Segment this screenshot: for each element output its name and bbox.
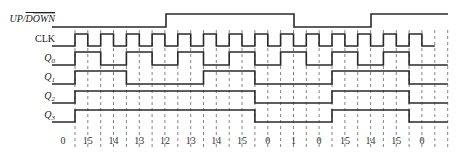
count-label: 12 [160, 135, 170, 146]
count-label: 0 [317, 135, 322, 146]
label-clk: CLK [35, 33, 56, 44]
count-label: 15 [237, 135, 247, 146]
label-q2: Q2 [44, 90, 55, 103]
waveform-q0 [52, 52, 448, 65]
waveform-q1 [52, 71, 448, 84]
count-label: 15 [83, 135, 93, 146]
label-updown: UP/DOWN [9, 13, 56, 24]
count-label: 0 [61, 135, 66, 146]
label-q0: Q0 [44, 52, 55, 65]
waveforms [52, 14, 448, 122]
count-label: 15 [340, 135, 350, 146]
waveform-updown [52, 14, 448, 27]
count-label: 1 [291, 135, 296, 146]
count-label: 14 [109, 135, 119, 146]
count-label: 14 [211, 135, 221, 146]
count-label: 15 [391, 135, 401, 146]
waveform-clk [52, 34, 435, 46]
label-q3: Q3 [44, 109, 55, 122]
count-label: 0 [265, 135, 270, 146]
signal-labels: UP/DOWN CLK Q0 Q1 Q2 Q3 [9, 13, 56, 122]
label-q1: Q1 [44, 71, 55, 84]
waveform-q3 [52, 110, 448, 122]
count-label: 13 [186, 135, 196, 146]
count-label: 0 [419, 135, 424, 146]
waveform-q2 [52, 91, 448, 103]
count-labels: 0151413121314150101514150 [61, 135, 425, 146]
count-label: 13 [134, 135, 144, 146]
timing-diagram: UP/DOWN CLK Q0 Q1 Q2 Q3 0151413121314150… [0, 0, 458, 153]
count-label: 14 [366, 135, 376, 146]
dashed-gridlines [75, 30, 448, 150]
